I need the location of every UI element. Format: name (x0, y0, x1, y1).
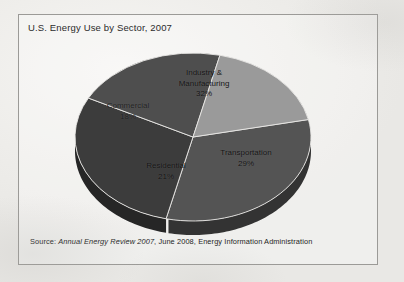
slice-label-line1: Industry & (186, 68, 222, 77)
slice-percent: 18% (86, 112, 170, 123)
source-citation: Source: Annual Energy Review 2007, June … (30, 237, 312, 246)
pie-slice-label-residential: Residential 21% (124, 161, 208, 182)
slice-label-line1: Commercial (107, 101, 150, 110)
source-prefix: Source: (30, 237, 56, 246)
slice-label-line1: Residential (146, 161, 186, 170)
source-rest: , June 2008, Energy Information Administ… (154, 237, 312, 246)
slice-label-line2: Manufacturing (179, 79, 230, 88)
source-publication: Annual Energy Review 2007 (58, 237, 154, 246)
slice-label-line1: Transportation (220, 148, 271, 157)
page-title: U.S. Energy Use by Sector, 2007 (28, 22, 172, 33)
pie-slice-label-transportation: Transportation 29% (198, 148, 294, 169)
figure-page: U.S. Energy Use by Sector, 2007 Industry… (0, 0, 404, 282)
slice-percent: 21% (124, 172, 208, 183)
pie-slice-label-industry: Industry & Manufacturing 32% (156, 68, 252, 100)
slice-percent: 29% (198, 159, 294, 170)
slice-percent: 32% (156, 89, 252, 100)
pie-slice-label-commercial: Commercial 18% (86, 101, 170, 122)
